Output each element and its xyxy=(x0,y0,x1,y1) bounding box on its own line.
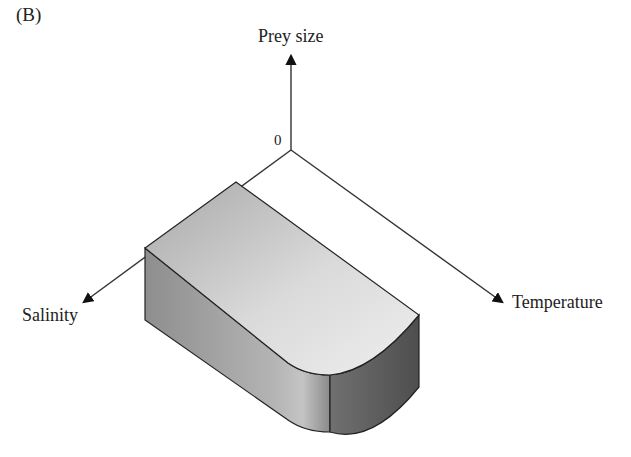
temperature-label: Temperature xyxy=(512,292,603,313)
diagram-canvas xyxy=(0,0,631,457)
origin-label: 0 xyxy=(274,132,282,149)
salinity-label: Salinity xyxy=(22,305,78,326)
tolerance-block xyxy=(145,182,419,434)
prey-size-label: Prey size xyxy=(258,26,323,47)
